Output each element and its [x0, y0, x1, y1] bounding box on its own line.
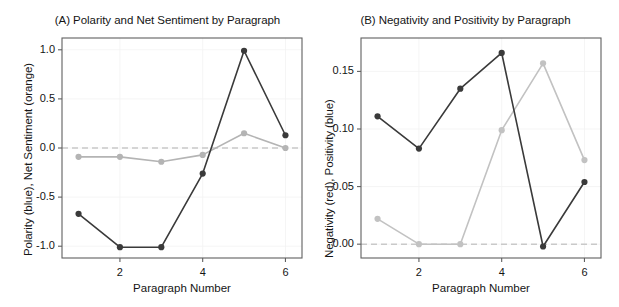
- panel-a-y-tick-label: -1.0: [36, 239, 55, 251]
- panel-a-x-tick-label: 6: [265, 266, 305, 278]
- panel-b-y-tick-label: 0.10: [333, 122, 354, 134]
- panel-a-y-tick-label: 1.0: [40, 43, 55, 55]
- panel-a-x-tick-label: 2: [100, 266, 140, 278]
- panel-a-y-tick-label: 0.0: [40, 141, 55, 153]
- chart-panel-a: (A) Polarity and Net Sentiment by Paragr…: [0, 0, 309, 307]
- panel-b-plot: [309, 0, 618, 307]
- panel-b-y-tick-label: 0.15: [333, 64, 354, 76]
- panel-b-x-tick-label: 6: [564, 266, 604, 278]
- panel-a-x-tick-label: 4: [183, 266, 223, 278]
- panel-a-y-tick-label: 0.5: [40, 92, 55, 104]
- panel-b-y-tick-label: 0.05: [333, 180, 354, 192]
- panel-b-y-tick-label: 0.00: [333, 237, 354, 249]
- chart-panel-b: (B) Negativity and Positivity by Paragra…: [309, 0, 618, 307]
- figure-container: (A) Polarity and Net Sentiment by Paragr…: [0, 0, 619, 307]
- panel-b-x-tick-label: 2: [399, 266, 439, 278]
- panel-b-x-tick-label: 4: [482, 266, 522, 278]
- panel-a-y-tick-label: -0.5: [36, 190, 55, 202]
